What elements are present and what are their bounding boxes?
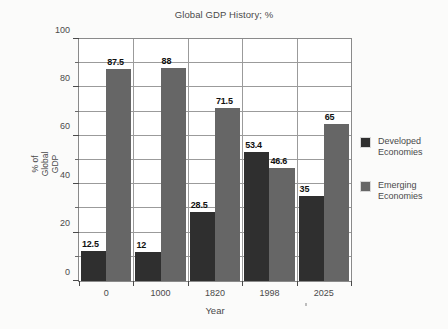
y-axis-tick <box>73 232 79 233</box>
y-axis-label: 80 <box>60 73 70 83</box>
y-axis-minor-tick <box>75 111 79 112</box>
bar-value-label: 46.6 <box>270 156 287 166</box>
x-axis-tick <box>242 281 243 286</box>
x-axis-tick <box>79 281 80 286</box>
bar-emerging-0 <box>106 69 131 281</box>
bar-value-label: 87.5 <box>107 57 124 67</box>
x-axis-label: 1820 <box>205 288 225 298</box>
bar-emerging-1000 <box>161 68 186 281</box>
y-axis-title-text: % of Global GDP <box>30 152 60 177</box>
gridline-vertical <box>133 39 134 281</box>
bar-value-label: 35 <box>300 184 310 194</box>
bar-developed-0 <box>81 251 106 281</box>
y-axis-tick <box>73 183 79 184</box>
y-axis-tick <box>73 38 79 39</box>
legend-entry-developed[interactable]: Developed Economies <box>360 136 446 158</box>
gridline-vertical <box>188 39 189 281</box>
bar-emerging-1820 <box>215 108 240 281</box>
y-axis-label: 40 <box>60 170 70 180</box>
legend-entry-emerging[interactable]: Emerging Economies <box>360 180 446 202</box>
bar-value-label: 28.5 <box>191 200 208 210</box>
legend-label: Emerging Economies <box>378 180 423 202</box>
bar-value-label: 65 <box>325 112 335 122</box>
x-axis-tick <box>133 281 134 286</box>
x-axis-label: 1000 <box>151 288 171 298</box>
x-axis-label: 2025 <box>314 288 334 298</box>
legend-swatch-icon <box>360 181 371 192</box>
y-axis-minor-tick <box>75 159 79 160</box>
bar-value-label: 88 <box>162 56 172 66</box>
y-axis-label: 60 <box>60 121 70 131</box>
bar-emerging-2025 <box>324 124 349 281</box>
chart-title: Global GDP History; % <box>0 9 448 20</box>
bar-value-label: 53.4 <box>245 140 262 150</box>
bar-developed-1000 <box>135 252 160 281</box>
x-axis-tick <box>297 281 298 286</box>
x-axis-label: 0 <box>104 288 109 298</box>
y-axis-tick <box>73 135 79 136</box>
bar-value-label: 12 <box>136 240 146 250</box>
y-axis-label: 20 <box>60 218 70 228</box>
legend-swatch-icon <box>360 137 371 148</box>
bar-developed-1820 <box>190 212 215 281</box>
y-axis-title: % of Global GDP <box>12 131 78 197</box>
scan-artifact-speck <box>305 303 307 306</box>
y-axis-label: 0 <box>65 267 70 277</box>
y-axis-minor-tick <box>75 62 79 63</box>
bar-value-label: 71.5 <box>216 96 233 106</box>
plot-area: 02040608010012.587.501288100028.571.5182… <box>78 38 352 282</box>
y-axis-tick <box>73 86 79 87</box>
chart-legend: Developed EconomiesEmerging Economies <box>360 136 446 224</box>
y-axis-minor-tick <box>75 256 79 257</box>
x-axis-tick <box>351 281 352 286</box>
x-axis-title: Year <box>78 305 352 316</box>
bar-developed-2025 <box>299 196 324 281</box>
y-axis-minor-tick <box>75 207 79 208</box>
bar-developed-1998 <box>244 152 269 281</box>
bar-emerging-1998 <box>269 168 294 281</box>
chart-figure: Global GDP History; % % of Global GDP 02… <box>0 0 448 329</box>
x-axis-tick <box>188 281 189 286</box>
y-axis-label: 100 <box>55 25 70 35</box>
bar-value-label: 12.5 <box>82 239 99 249</box>
x-axis-label: 1998 <box>259 288 279 298</box>
gridline-vertical <box>297 39 298 281</box>
gridline-vertical <box>242 39 243 281</box>
legend-label: Developed Economies <box>378 136 423 158</box>
